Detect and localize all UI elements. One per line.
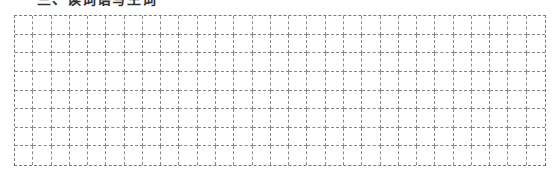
grid-cell <box>435 72 453 91</box>
grid-cell <box>381 91 399 110</box>
grid-cell <box>289 128 307 147</box>
grid-cell <box>307 128 325 147</box>
grid-cell <box>88 16 106 35</box>
grid-cell <box>70 35 88 54</box>
grid-cell <box>106 146 124 165</box>
grid-cell <box>106 128 124 147</box>
grid-cell <box>527 146 545 165</box>
grid-cell <box>271 109 289 128</box>
grid-cell <box>88 53 106 72</box>
grid-cell <box>33 91 51 110</box>
grid-cell <box>344 35 362 54</box>
grid-cell <box>179 128 197 147</box>
grid-cell <box>362 146 380 165</box>
grid-cell <box>52 16 70 35</box>
grid-cell <box>381 72 399 91</box>
grid-cell <box>143 128 161 147</box>
grid-cell <box>508 128 526 147</box>
grid-cell <box>454 128 472 147</box>
grid-cell <box>399 35 417 54</box>
grid-cell <box>326 16 344 35</box>
grid-cell <box>143 146 161 165</box>
grid-cell <box>216 16 234 35</box>
grid-cell <box>454 35 472 54</box>
grid-cell <box>399 53 417 72</box>
grid-cell <box>435 91 453 110</box>
grid-cell <box>326 109 344 128</box>
grid-cell <box>490 146 508 165</box>
grid-cell <box>271 91 289 110</box>
grid-cell <box>216 128 234 147</box>
grid-cell <box>362 16 380 35</box>
grid-cell <box>527 72 545 91</box>
grid-cell <box>490 35 508 54</box>
grid-cell <box>33 16 51 35</box>
grid-cell <box>399 146 417 165</box>
grid-cell <box>508 109 526 128</box>
grid-cell <box>362 109 380 128</box>
grid-cell <box>198 91 216 110</box>
grid-cell <box>253 109 271 128</box>
grid-cell <box>527 35 545 54</box>
grid-cell <box>88 146 106 165</box>
grid-cell <box>435 16 453 35</box>
grid-cell <box>435 109 453 128</box>
grid-cell <box>161 53 179 72</box>
grid-cell <box>362 53 380 72</box>
grid-cell <box>344 72 362 91</box>
grid-cell <box>508 16 526 35</box>
grid-cell <box>399 128 417 147</box>
grid-cell <box>143 16 161 35</box>
grid-cell <box>179 91 197 110</box>
grid-cell <box>216 35 234 54</box>
grid-cell <box>454 53 472 72</box>
grid-cell <box>289 35 307 54</box>
grid-cell <box>344 146 362 165</box>
grid-cell <box>198 53 216 72</box>
grid-cell <box>70 16 88 35</box>
grid-cell <box>88 35 106 54</box>
grid-cell <box>307 16 325 35</box>
grid-cell <box>179 53 197 72</box>
grid-cell <box>307 72 325 91</box>
grid-cell <box>125 72 143 91</box>
grid-cell <box>472 109 490 128</box>
grid-cell <box>417 91 435 110</box>
grid-cell <box>143 35 161 54</box>
grid-cell <box>344 128 362 147</box>
grid-cell <box>15 91 33 110</box>
grid-cell <box>88 109 106 128</box>
grid-cell <box>362 128 380 147</box>
grid-cell <box>417 109 435 128</box>
grid-cell <box>381 16 399 35</box>
grid-cell <box>70 146 88 165</box>
grid-cell <box>417 146 435 165</box>
grid-cell <box>161 128 179 147</box>
grid-cell <box>454 146 472 165</box>
grid-cell <box>106 35 124 54</box>
grid-cell <box>435 35 453 54</box>
grid-cell <box>326 72 344 91</box>
grid-cell <box>52 72 70 91</box>
grid-cell <box>289 109 307 128</box>
section-title: 三、读词语写生词 <box>37 0 157 7</box>
grid-cell <box>362 91 380 110</box>
grid-cell <box>125 53 143 72</box>
grid-cell <box>234 53 252 72</box>
grid-cell <box>271 53 289 72</box>
grid-cell <box>70 53 88 72</box>
grid-cell <box>198 72 216 91</box>
grid-cell <box>179 109 197 128</box>
grid-cell <box>435 146 453 165</box>
grid-cell <box>344 53 362 72</box>
grid-cell <box>289 146 307 165</box>
grid-cell <box>143 109 161 128</box>
grid-cell <box>307 35 325 54</box>
grid-cell <box>271 16 289 35</box>
grid-cell <box>490 16 508 35</box>
grid-cell <box>88 128 106 147</box>
grid-cell <box>454 72 472 91</box>
grid-cell <box>289 91 307 110</box>
grid-cell <box>15 146 33 165</box>
grid-cell <box>216 109 234 128</box>
